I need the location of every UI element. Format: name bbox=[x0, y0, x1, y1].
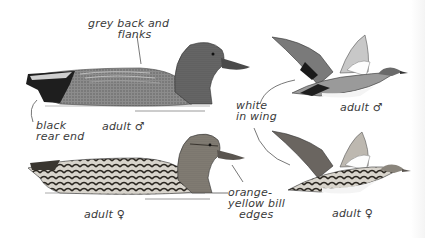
label-grey-back: grey back and flanks bbox=[88, 18, 169, 40]
caption-female-swimming: adult ♀ bbox=[84, 209, 125, 220]
caption-male-swimming: adult ♂ bbox=[102, 121, 145, 132]
male-swimming-duck bbox=[26, 42, 250, 111]
label-bill-edges: orange- yellow bill edges bbox=[228, 187, 285, 220]
caption-female-flying: adult ♀ bbox=[332, 208, 373, 219]
page-edge bbox=[411, 0, 425, 238]
caption-male-flying: adult ♂ bbox=[340, 102, 383, 113]
illustration-plate: grey back and flanks black rear end whit… bbox=[0, 0, 425, 238]
leader-bill-edges bbox=[232, 165, 243, 182]
male-flying-duck bbox=[272, 35, 408, 98]
female-swimming-duck bbox=[28, 134, 245, 199]
female-flying-duck bbox=[272, 131, 411, 194]
label-black-rear-end: black rear end bbox=[36, 120, 84, 142]
label-white-in-wing: white in wing bbox=[236, 100, 277, 122]
